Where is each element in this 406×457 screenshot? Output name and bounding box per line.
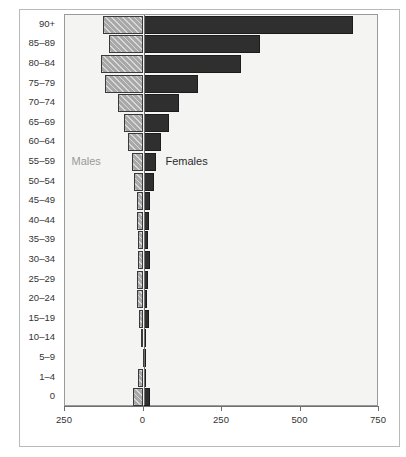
y-axis-tick-labels: 90+85–8980–8475–7970–7465–6960–6455–5950… bbox=[0, 14, 62, 406]
y-tick-label: 25–29 bbox=[29, 274, 55, 284]
x-tick-label: 500 bbox=[292, 414, 308, 425]
x-tick bbox=[143, 406, 144, 411]
y-tick-label: 1–4 bbox=[39, 372, 55, 382]
x-tick bbox=[221, 406, 222, 411]
bar-row bbox=[65, 75, 377, 93]
y-tick-label: 30–34 bbox=[29, 254, 55, 264]
bar-row bbox=[65, 329, 377, 347]
x-tick-label: 250 bbox=[56, 414, 72, 425]
bar-male bbox=[133, 388, 144, 406]
bar-row bbox=[65, 173, 377, 191]
bar-row bbox=[65, 114, 377, 132]
bar-female bbox=[144, 133, 162, 151]
x-tick-label: 750 bbox=[370, 414, 386, 425]
y-tick-label: 20–24 bbox=[29, 293, 55, 303]
bar-row bbox=[65, 231, 377, 249]
bar-male bbox=[118, 94, 144, 112]
plot-area: Males Females bbox=[64, 14, 378, 406]
bar-male bbox=[103, 16, 144, 34]
y-tick-label: 0 bbox=[50, 391, 55, 401]
bar-female bbox=[144, 114, 169, 132]
y-tick-label: 70–74 bbox=[29, 97, 55, 107]
x-tick-label: 0 bbox=[140, 414, 145, 425]
y-tick-label: 50–54 bbox=[29, 176, 55, 186]
zero-reference-line bbox=[144, 15, 145, 405]
bar-female bbox=[144, 173, 154, 191]
x-tick bbox=[300, 406, 301, 411]
y-tick-label: 90+ bbox=[39, 19, 55, 29]
bar-male bbox=[134, 173, 143, 191]
bar-male bbox=[137, 192, 144, 210]
bars-layer bbox=[65, 15, 377, 405]
bar-row bbox=[65, 16, 377, 34]
bar-row bbox=[65, 192, 377, 210]
y-tick-label: 15–19 bbox=[29, 313, 55, 323]
bar-female bbox=[144, 94, 179, 112]
bar-female bbox=[144, 75, 199, 93]
bar-male bbox=[128, 133, 144, 151]
bar-male bbox=[132, 153, 144, 171]
bar-row bbox=[65, 349, 377, 367]
y-tick-label: 40–44 bbox=[29, 215, 55, 225]
y-tick-label: 55–59 bbox=[29, 156, 55, 166]
bar-row bbox=[65, 290, 377, 308]
y-tick-label: 35–39 bbox=[29, 234, 55, 244]
bar-row bbox=[65, 133, 377, 151]
bar-female bbox=[144, 16, 354, 34]
series-label-females: Females bbox=[166, 155, 208, 167]
bar-row bbox=[65, 55, 377, 73]
y-tick-label: 45–49 bbox=[29, 195, 55, 205]
bar-row bbox=[65, 94, 377, 112]
bar-row bbox=[65, 388, 377, 406]
series-label-males: Males bbox=[72, 155, 101, 167]
bar-female bbox=[144, 153, 157, 171]
bar-row bbox=[65, 35, 377, 53]
bar-male bbox=[109, 35, 144, 53]
x-tick bbox=[378, 406, 379, 411]
bar-male bbox=[105, 75, 143, 93]
x-tick-label: 250 bbox=[213, 414, 229, 425]
bar-female bbox=[144, 388, 151, 406]
y-tick-label: 60–64 bbox=[29, 136, 55, 146]
bar-row bbox=[65, 310, 377, 328]
y-tick-label: 65–69 bbox=[29, 117, 55, 127]
bar-female bbox=[144, 55, 241, 73]
bar-row bbox=[65, 271, 377, 289]
bar-male bbox=[137, 271, 144, 289]
bar-row bbox=[65, 369, 377, 387]
y-tick-label: 5–9 bbox=[39, 352, 55, 362]
bar-row bbox=[65, 212, 377, 230]
x-tick bbox=[64, 406, 65, 411]
y-tick-label: 80–84 bbox=[29, 58, 55, 68]
y-tick-label: 10–14 bbox=[29, 332, 55, 342]
bar-male bbox=[137, 290, 144, 308]
bar-male bbox=[124, 114, 143, 132]
bar-row bbox=[65, 153, 377, 171]
bar-female bbox=[144, 35, 260, 53]
bar-row bbox=[65, 251, 377, 269]
y-tick-label: 85–89 bbox=[29, 38, 55, 48]
bar-male bbox=[101, 55, 143, 73]
y-tick-label: 75–79 bbox=[29, 78, 55, 88]
